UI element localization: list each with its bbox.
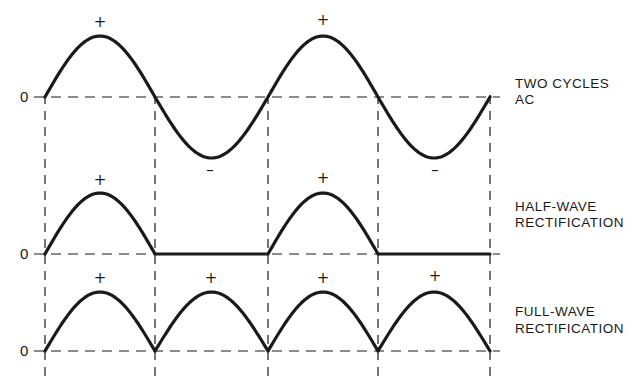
minus-sign: – (206, 161, 214, 179)
ac-label-line-1: TWO CYCLES (515, 76, 609, 91)
ac-label-line-2: AC (515, 92, 535, 107)
plus-sign: + (94, 13, 107, 31)
vertical-guide-lines (45, 95, 490, 380)
zero-labels: 000 (20, 88, 28, 359)
plus-sign: + (317, 11, 330, 29)
plus-sign: + (429, 267, 442, 285)
full-wave-zero-label: 0 (20, 342, 28, 359)
minus-sign: – (431, 161, 439, 179)
full-wave-label-line-1: FULL-WAVE (515, 304, 595, 319)
half-wave-label-line-1: HALF-WAVE (515, 199, 597, 214)
zero-baselines (34, 97, 500, 351)
plus-sign: + (205, 269, 218, 287)
rectification-diagram: +–+–++++++ 000 TWO CYCLES AC HALF-WAVE R… (0, 0, 636, 389)
half-wave-zero-label: 0 (20, 245, 28, 262)
plus-sign: + (94, 171, 107, 189)
half-wave-label-line-2: RECTIFICATION (515, 215, 624, 230)
plus-sign: + (317, 269, 330, 287)
plus-sign: + (94, 269, 107, 287)
ac-zero-label: 0 (20, 88, 28, 105)
plus-sign: + (317, 169, 330, 187)
full-wave-label-line-2: RECTIFICATION (515, 321, 624, 336)
